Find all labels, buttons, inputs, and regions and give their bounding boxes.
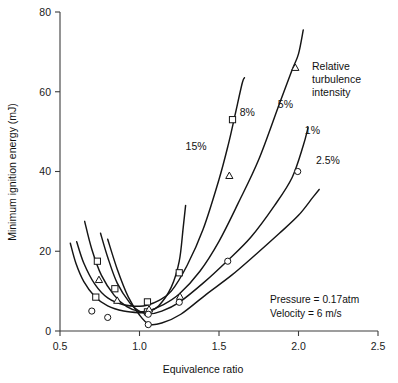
marker-square <box>93 294 99 300</box>
series-label-5%: 5% <box>278 98 293 110</box>
curve-8% <box>77 78 245 306</box>
data-curves <box>70 30 319 325</box>
x-tick-label: 1.0 <box>132 340 147 352</box>
marker-square <box>144 299 150 305</box>
chart-svg: 0.51.01.52.02.5 020406080 15%8%5%1%2.5% … <box>0 0 398 383</box>
legend-title-line-1: Relative <box>312 60 350 72</box>
marker-circle <box>225 258 231 264</box>
x-tick-label: 2.0 <box>291 340 306 352</box>
conditions-annotation: Pressure = 0.17atm Velocity = 6 m/s <box>270 294 359 319</box>
y-tick-label: 80 <box>39 6 51 18</box>
series-label-1%: 1% <box>305 124 320 136</box>
y-axis-ticks: 020406080 <box>39 6 60 337</box>
marker-circle <box>295 168 301 174</box>
x-tick-label: 2.5 <box>371 340 386 352</box>
marker-triangle <box>95 276 102 282</box>
marker-circle <box>176 299 182 305</box>
series-label-8%: 8% <box>240 106 255 118</box>
marker-circle <box>105 314 111 320</box>
marker-square <box>176 270 182 276</box>
y-tick-label: 20 <box>39 245 51 257</box>
y-tick-label: 40 <box>39 165 51 177</box>
x-axis-ticks: 0.51.01.52.02.5 <box>53 331 386 352</box>
series-labels: 15%8%5%1%2.5% <box>186 98 340 166</box>
annotation-pressure: Pressure = 0.17atm <box>270 294 359 305</box>
annotation-velocity: Velocity = 6 m/s <box>270 308 342 319</box>
y-tick-label: 0 <box>45 325 51 337</box>
x-tick-label: 0.5 <box>53 340 68 352</box>
x-axis-title: Equivalence ratio <box>163 363 244 375</box>
y-axis-title: Minimum ignition energy (mJ) <box>6 103 18 241</box>
series-label-2-5%: 2.5% <box>316 154 340 166</box>
marker-circle <box>145 322 151 328</box>
marker-triangle <box>226 172 233 178</box>
y-tick-label: 60 <box>39 86 51 98</box>
legend-title-block: Relative turbulence intensity <box>312 60 361 98</box>
legend-title-line-3: intensity <box>312 86 351 98</box>
chart-figure: 0.51.01.52.02.5 020406080 15%8%5%1%2.5% … <box>0 0 398 383</box>
marker-circle <box>89 308 95 314</box>
marker-circle <box>145 311 151 317</box>
x-tick-label: 1.5 <box>212 340 227 352</box>
curve-1% <box>101 128 308 314</box>
marker-square <box>94 258 100 264</box>
marker-triangle <box>114 297 121 303</box>
series-label-15%: 15% <box>186 140 207 152</box>
legend-title-line-2: turbulence <box>312 73 361 85</box>
marker-square <box>229 117 235 123</box>
marker-square <box>112 286 118 292</box>
